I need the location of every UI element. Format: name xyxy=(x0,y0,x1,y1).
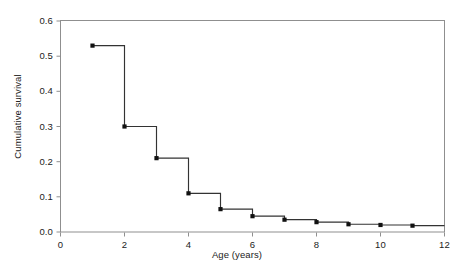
data-point-marker xyxy=(314,220,318,224)
y-tick-label-0: 0.0 xyxy=(26,226,53,237)
data-point-marker xyxy=(186,191,190,195)
data-point-marker xyxy=(218,207,222,211)
y-tick-label-3: 0.3 xyxy=(26,121,53,132)
y-axis-title: Cumulative survival xyxy=(12,74,23,158)
y-tick-label-6: 0.6 xyxy=(26,15,53,26)
y-axis-ticks xyxy=(57,21,61,232)
y-axis-title-wrapper: Cumulative survival xyxy=(8,0,26,232)
data-point-markers xyxy=(90,44,414,228)
y-tick-label-5: 0.5 xyxy=(26,50,53,61)
data-point-marker xyxy=(154,156,158,160)
y-tick-label-4: 0.4 xyxy=(26,85,53,96)
data-point-marker xyxy=(346,222,350,226)
x-axis-title: Age (years) xyxy=(0,249,474,260)
survival-step-line xyxy=(93,46,445,226)
survival-chart-figure: Cumulative survival 0.0 0.1 0.2 0.3 0.4 … xyxy=(0,0,474,273)
data-point-marker xyxy=(378,223,382,227)
y-tick-label-1: 0.1 xyxy=(26,191,53,202)
data-point-marker xyxy=(122,124,126,128)
plot-frame xyxy=(61,21,445,233)
plot-canvas xyxy=(0,0,474,273)
y-tick-label-2: 0.2 xyxy=(26,156,53,167)
data-point-marker xyxy=(410,224,414,228)
x-axis-ticks xyxy=(61,233,445,237)
plot-frame-box xyxy=(61,21,445,233)
data-point-marker xyxy=(90,44,94,48)
data-point-marker xyxy=(250,214,254,218)
data-point-marker xyxy=(282,218,286,222)
